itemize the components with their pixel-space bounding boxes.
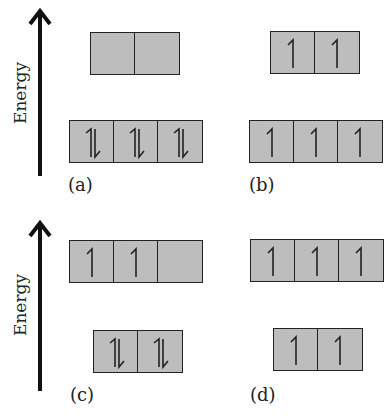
orbital-box-up: [114, 241, 158, 282]
paired-electrons-icon: [70, 121, 114, 162]
panel-a-lower-orbitals: [69, 120, 203, 163]
energy-arrow-bottom: [28, 218, 52, 393]
spin-up-electron-icon: [338, 121, 382, 162]
panel-a-upper-orbitals: [90, 32, 180, 75]
orbital-box-up: [271, 32, 315, 73]
spin-up-electron-icon: [251, 240, 295, 281]
energy-axis-label-bottom: Energy: [10, 274, 30, 336]
orbital-box-up: [250, 121, 294, 162]
panel-b-lower-orbitals: [249, 120, 383, 163]
spin-up-electron-icon: [318, 329, 362, 370]
orbital-box-empty: [135, 33, 179, 74]
spin-up-electron-icon: [70, 241, 114, 282]
panel-label-b: (b): [249, 174, 275, 195]
orbital-box-up: [294, 121, 338, 162]
spin-up-electron-icon: [274, 329, 318, 370]
orbital-box-up: [251, 240, 295, 281]
orbital-box-empty: [91, 33, 135, 74]
orbital-box-up: [274, 329, 318, 370]
panel-c-lower-orbitals: [93, 330, 183, 373]
orbital-box-up: [338, 121, 382, 162]
orbital-box-up: [318, 329, 362, 370]
spin-up-electron-icon: [295, 240, 339, 281]
empty-orbital-icon: [91, 33, 135, 74]
orbital-box-pair: [114, 121, 158, 162]
spin-up-electron-icon: [294, 121, 338, 162]
energy-arrow-top: [28, 6, 52, 178]
orbital-box-pair: [138, 331, 182, 372]
paired-electrons-icon: [138, 331, 182, 372]
paired-electrons-icon: [158, 121, 202, 162]
panel-d-upper-orbitals: [250, 239, 384, 282]
spin-up-electron-icon: [339, 240, 383, 281]
orbital-box-empty: [158, 241, 202, 282]
panel-label-c: (c): [70, 384, 94, 405]
orbital-box-pair: [94, 331, 138, 372]
spin-up-electron-icon: [271, 32, 315, 73]
orbital-box-up: [315, 32, 359, 73]
panel-b-upper-orbitals: [270, 31, 360, 74]
panel-d-lower-orbitals: [273, 328, 363, 371]
energy-axis-label-top: Energy: [10, 62, 30, 124]
panel-label-a: (a): [68, 174, 93, 195]
spin-up-electron-icon: [114, 241, 158, 282]
empty-orbital-icon: [158, 241, 202, 282]
orbital-box-up: [70, 241, 114, 282]
orbital-box-up: [339, 240, 383, 281]
orbital-box-pair: [158, 121, 202, 162]
spin-up-electron-icon: [250, 121, 294, 162]
orbital-box-up: [295, 240, 339, 281]
empty-orbital-icon: [135, 33, 179, 74]
orbital-box-pair: [70, 121, 114, 162]
spin-up-electron-icon: [315, 32, 359, 73]
paired-electrons-icon: [94, 331, 138, 372]
paired-electrons-icon: [114, 121, 158, 162]
panel-c-upper-orbitals: [69, 240, 203, 283]
panel-label-d: (d): [250, 384, 276, 405]
